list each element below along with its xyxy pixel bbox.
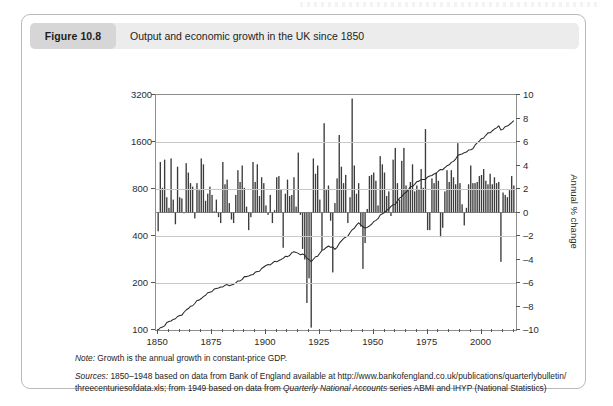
bar-annual-change bbox=[472, 183, 473, 212]
bar-annual-change bbox=[220, 213, 221, 224]
x-axis-minor-tick bbox=[405, 329, 406, 332]
bar-annual-change bbox=[192, 187, 193, 213]
y-axis-left-tick-label: 800 bbox=[131, 183, 148, 194]
x-axis-tick-label: 1925 bbox=[308, 336, 329, 347]
y-axis-right-tick-mark bbox=[516, 94, 520, 95]
x-axis-major-tick bbox=[373, 329, 374, 334]
sources-body-1: 1850–1948 based on data from Bank of Eng… bbox=[108, 371, 566, 381]
y-axis-right-title: Annual % change bbox=[569, 174, 580, 248]
bar-annual-change bbox=[349, 197, 350, 212]
y-axis-left-tick-label: 400 bbox=[131, 230, 148, 241]
bar-annual-change bbox=[446, 170, 447, 212]
bar-annual-change bbox=[218, 213, 219, 218]
x-axis-minor-tick bbox=[384, 329, 385, 332]
y-axis-right-tick-mark bbox=[516, 165, 520, 166]
bar-annual-change bbox=[186, 163, 187, 212]
bar-annual-change bbox=[485, 181, 486, 213]
bar-annual-change bbox=[505, 195, 506, 213]
bar-annual-change bbox=[295, 207, 296, 213]
bar-annual-change bbox=[198, 190, 199, 212]
x-axis-minor-tick bbox=[243, 329, 244, 332]
sources-label: Sources: bbox=[75, 371, 108, 381]
y-axis-right-tick-label: –10 bbox=[523, 324, 539, 335]
bar-annual-change bbox=[464, 213, 465, 226]
bar-annual-change bbox=[274, 210, 275, 212]
chart-svg bbox=[156, 95, 516, 330]
bar-annual-change bbox=[397, 183, 398, 212]
bar-annual-change bbox=[362, 213, 363, 269]
gridline bbox=[156, 189, 516, 190]
bar-annual-change bbox=[194, 213, 195, 219]
x-axis-minor-tick bbox=[394, 329, 395, 332]
bar-annual-change bbox=[321, 213, 322, 251]
y-axis-right-tick-mark bbox=[516, 212, 520, 213]
note-label: Note: bbox=[75, 353, 95, 363]
bar-annual-change bbox=[375, 181, 376, 213]
bar-annual-change bbox=[164, 160, 165, 213]
y-axis-left-tick-label: 200 bbox=[131, 277, 148, 288]
bar-annual-change bbox=[414, 191, 415, 212]
bar-annual-change bbox=[261, 177, 262, 212]
bar-annual-change bbox=[345, 175, 346, 213]
y-axis-right-tick-label: 6 bbox=[523, 136, 528, 147]
x-axis-tick-label: 1875 bbox=[200, 336, 221, 347]
bar-annual-change bbox=[356, 194, 357, 213]
bar-annual-change bbox=[181, 198, 182, 212]
bar-annual-change bbox=[216, 200, 217, 213]
gridline bbox=[156, 142, 516, 143]
bar-annual-change bbox=[326, 189, 327, 213]
figure-card: Figure 10.8 Output and economic growth i… bbox=[21, 14, 586, 389]
bar-annual-change bbox=[477, 182, 478, 213]
sources-body-2a: threecenturiesofdata.xls; from 1949 base… bbox=[75, 383, 283, 393]
x-axis-minor-tick bbox=[470, 329, 471, 332]
x-axis-minor-tick bbox=[437, 329, 438, 332]
bar-annual-change bbox=[442, 213, 443, 228]
x-axis-minor-tick bbox=[200, 329, 201, 332]
bar-annual-change bbox=[263, 183, 264, 212]
bar-annual-change bbox=[287, 180, 288, 213]
x-axis-tick-label: 1950 bbox=[362, 336, 383, 347]
bar-annual-change bbox=[489, 174, 490, 213]
y-axis-right-tick-mark bbox=[516, 235, 520, 236]
bar-annual-change bbox=[267, 213, 268, 215]
x-axis-minor-tick bbox=[502, 329, 503, 332]
bar-annual-change bbox=[444, 191, 445, 212]
y-axis-right-tick-label: 10 bbox=[523, 89, 534, 100]
bar-annual-change bbox=[332, 213, 333, 273]
x-axis-minor-tick bbox=[179, 329, 180, 332]
bar-annual-change bbox=[280, 189, 281, 213]
bar-annual-change bbox=[390, 213, 391, 217]
bar-annual-change bbox=[170, 158, 171, 212]
x-axis-minor-tick bbox=[416, 329, 417, 332]
bar-annual-change bbox=[272, 213, 273, 224]
bar-annual-change bbox=[408, 190, 409, 212]
bar-annual-change bbox=[196, 183, 197, 212]
y-axis-right-tick-label: 2 bbox=[523, 183, 528, 194]
chart-sources-line-2: threecenturiesofdata.xls; from 1949 base… bbox=[75, 383, 547, 393]
bar-annual-change bbox=[229, 203, 230, 212]
bar-annual-change bbox=[209, 187, 210, 213]
bar-annual-change bbox=[160, 162, 161, 213]
y-axis-right-tick-mark bbox=[516, 141, 520, 142]
note-body: Growth is the annual growth in constant-… bbox=[95, 353, 287, 363]
x-axis-major-tick bbox=[427, 329, 428, 334]
x-axis-minor-tick bbox=[491, 329, 492, 332]
bar-annual-change bbox=[498, 182, 499, 213]
y-axis-right-tick-label: –6 bbox=[523, 277, 534, 288]
bar-annual-change bbox=[311, 213, 312, 328]
y-axis-right-tick-label: 4 bbox=[523, 159, 528, 170]
bar-annual-change bbox=[466, 208, 467, 213]
bar-annual-change bbox=[157, 213, 158, 232]
bar-annual-change bbox=[291, 195, 292, 213]
y-axis-left-tick-mark bbox=[151, 188, 155, 189]
bar-annual-change bbox=[207, 194, 208, 213]
x-axis-minor-tick bbox=[340, 329, 341, 332]
bar-annual-change bbox=[403, 148, 404, 213]
bar-annual-change bbox=[369, 176, 370, 212]
y-axis-left-tick-mark bbox=[151, 329, 155, 330]
x-axis-minor-tick bbox=[222, 329, 223, 332]
sources-publication-title: Quarterly National Accounts bbox=[283, 383, 387, 393]
x-axis-minor-tick bbox=[276, 329, 277, 332]
y-axis-right-tick-label: 8 bbox=[523, 112, 528, 123]
bar-annual-change bbox=[283, 213, 284, 248]
